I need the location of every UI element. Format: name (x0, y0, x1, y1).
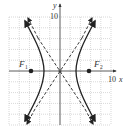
y-axis-label: y (52, 1, 57, 10)
asymptote-line (35, 38, 82, 109)
x-tick-label: 10 (108, 75, 116, 84)
focus-label-f2-sub: 2 (100, 64, 103, 70)
hyperbola-chart: y 10 10 x F 1 F 2 (0, 0, 130, 127)
y-tick-label: 10 (50, 12, 58, 21)
focus-point-f1 (29, 69, 34, 74)
focus-label-f2: F (93, 59, 100, 69)
asymptote-line (27, 109, 35, 124)
focus-point-f2 (87, 69, 92, 74)
asymptote-line (38, 38, 85, 109)
focus-label-f1: F (18, 59, 25, 69)
asymptote-line (85, 109, 93, 124)
x-axis-label: x (118, 75, 123, 84)
focus-label-f1-sub: 1 (25, 64, 28, 70)
